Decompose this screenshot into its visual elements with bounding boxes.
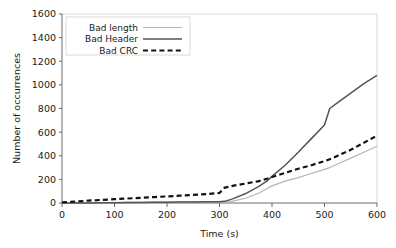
y-tick-label: 600 — [38, 127, 56, 138]
occurrences-line-chart: 02004006008001000120014001600 Number of … — [0, 0, 396, 248]
y-tick-label: 400 — [38, 150, 56, 161]
series-lines — [62, 75, 377, 203]
x-axis-title: Time (s) — [199, 228, 239, 239]
x-tick-label: 300 — [210, 209, 228, 220]
y-axis-ticks: 02004006008001000120014001600 — [32, 8, 62, 208]
chart-legend: Bad lengthBad HeaderBad CRC — [66, 17, 190, 56]
x-axis: 0100200300400500600 Time (s) — [59, 203, 386, 239]
legend-label-2: Bad CRC — [99, 46, 138, 56]
y-tick-label: 1600 — [32, 8, 56, 19]
x-tick-label: 500 — [315, 209, 333, 220]
y-tick-label: 1200 — [32, 56, 56, 67]
legend-label-0: Bad length — [89, 23, 138, 33]
series-line-2 — [62, 136, 377, 203]
y-axis: 02004006008001000120014001600 Number of … — [11, 8, 62, 208]
y-tick-label: 800 — [38, 103, 56, 114]
x-tick-label: 100 — [105, 209, 123, 220]
chart-container: 02004006008001000120014001600 Number of … — [0, 0, 396, 248]
x-tick-label: 0 — [59, 209, 65, 220]
x-tick-label: 400 — [263, 209, 281, 220]
series-line-1 — [62, 75, 377, 203]
y-tick-label: 200 — [38, 174, 56, 185]
x-axis-ticks: 0100200300400500600 — [59, 203, 386, 220]
y-tick-label: 1000 — [32, 79, 56, 90]
x-tick-label: 600 — [368, 209, 386, 220]
legend-label-1: Bad Header — [85, 34, 138, 44]
series-line-0 — [62, 146, 377, 203]
x-tick-label: 200 — [158, 209, 176, 220]
y-axis-title: Number of occurrences — [11, 53, 22, 164]
y-tick-label: 0 — [50, 197, 56, 208]
y-tick-label: 1400 — [32, 32, 56, 43]
